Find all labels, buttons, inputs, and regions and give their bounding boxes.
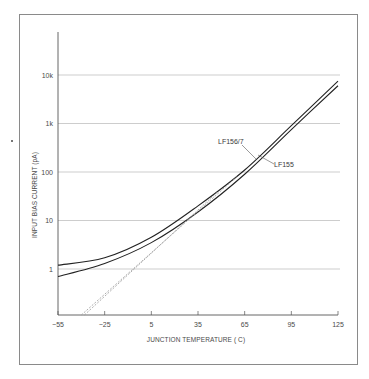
label-lf156-7: LF156/7 xyxy=(218,138,244,145)
y-tick-label: 10k xyxy=(42,72,54,79)
leader-line-lf156 xyxy=(242,145,256,159)
y-axis-title: INPUT BIAS CURRENT (pA) xyxy=(31,152,39,238)
series-lf155 xyxy=(58,86,338,277)
x-tick-label: −25 xyxy=(99,321,111,328)
x-tick-label: 65 xyxy=(241,321,249,328)
y-tick-label: 1 xyxy=(49,266,53,273)
series-lf155-asymptote xyxy=(84,191,218,315)
y-axis-ticks: 1101001k10k xyxy=(41,72,53,273)
x-tick-label: 95 xyxy=(287,321,295,328)
y-tick-label: 1k xyxy=(46,120,54,127)
label-lf155: LF155 xyxy=(274,161,294,168)
x-tick-label: 5 xyxy=(149,321,153,328)
margin-mark xyxy=(11,140,13,142)
y-tick-label: 10 xyxy=(45,217,53,224)
y-tick-label: 100 xyxy=(41,169,53,176)
x-tick-label: −55 xyxy=(52,321,64,328)
data-series xyxy=(58,81,338,315)
x-tick-label: 125 xyxy=(332,321,344,328)
x-axis-title: JUNCTION TEMPERATURE ( C) xyxy=(147,336,245,344)
series-lf156-7 xyxy=(58,81,338,265)
axes xyxy=(58,32,338,315)
gridlines xyxy=(58,75,340,269)
x-tick-label: 35 xyxy=(194,321,202,328)
x-axis-ticks: −55−255356595125 xyxy=(52,311,344,328)
bias-current-chart: 1101001k10k −55−255356595125 LF156/7 LF1… xyxy=(0,0,369,379)
